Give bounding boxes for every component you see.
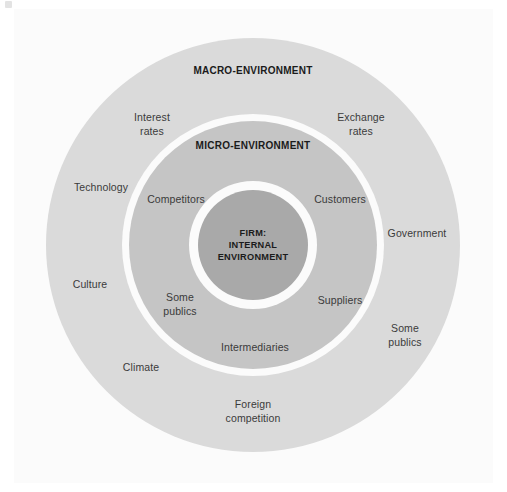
micro-environment-heading: MICRO-ENVIRONMENT (196, 139, 311, 152)
micro-label-customers: Customers (314, 193, 366, 207)
macro-label-some-publics: Some publics (388, 322, 421, 349)
macro-label-climate: Climate (123, 361, 159, 375)
marketing-environment-diagram: MACRO-ENVIRONMENT MICRO-ENVIRONMENT FIRM… (0, 0, 507, 492)
macro-label-interest-rates: Interest rates (134, 111, 170, 138)
micro-label-suppliers: Suppliers (318, 294, 363, 308)
macro-label-foreign-competition: Foreign competition (226, 398, 281, 425)
macro-label-government: Government (388, 227, 447, 241)
diagram-page: MACRO-ENVIRONMENT MICRO-ENVIRONMENT FIRM… (0, 0, 507, 492)
micro-label-competitors: Competitors (147, 193, 205, 207)
firm-internal-environment-heading: FIRM: INTERNAL ENVIRONMENT (218, 227, 289, 263)
micro-label-some-publics: Some publics (163, 291, 196, 318)
macro-label-exchange-rates: Exchange rates (337, 111, 385, 138)
macro-environment-heading: MACRO-ENVIRONMENT (193, 64, 312, 77)
macro-label-technology: Technology (74, 181, 128, 195)
micro-label-intermediaries: Intermediaries (221, 341, 289, 355)
macro-label-culture: Culture (73, 278, 108, 292)
